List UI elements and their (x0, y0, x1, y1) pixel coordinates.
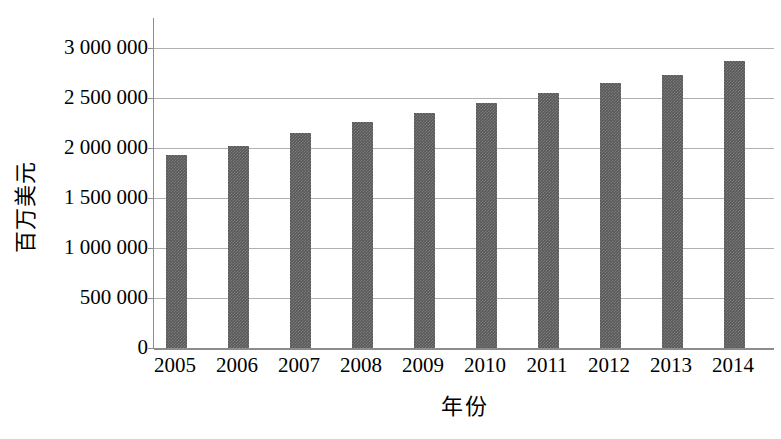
y-axis-tick-label: 2 000 000 (0, 137, 148, 158)
bars-layer (154, 18, 774, 348)
bar-chart: 百万美元 0500 0001 000 0001 500 0002 000 000… (0, 0, 781, 439)
plot-area (153, 18, 773, 348)
bar (352, 122, 373, 348)
x-axis-tick-label: 2013 (636, 355, 706, 376)
bar (476, 103, 497, 348)
y-axis-tick-label: 0 (0, 337, 148, 358)
x-axis-tick-label: 2011 (512, 355, 582, 376)
x-axis-tick-label: 2009 (388, 355, 458, 376)
bar (166, 155, 187, 348)
x-axis-tick-label: 2010 (450, 355, 520, 376)
y-axis-tick-label: 2 500 000 (0, 87, 148, 108)
y-axis-tick-label: 3 000 000 (0, 37, 148, 58)
y-axis-tick-label: 1 000 000 (0, 237, 148, 258)
bar (414, 113, 435, 348)
bar (538, 93, 559, 348)
x-axis-tick-label: 2007 (264, 355, 334, 376)
y-axis-tickmark (148, 348, 154, 349)
plot-inner (154, 18, 774, 348)
gridline (154, 348, 774, 350)
bar (290, 133, 311, 348)
x-axis-tick-labels: 2005200620072008200920102011201220132014 (153, 355, 773, 385)
x-axis-title: 年份 (0, 396, 781, 418)
x-axis-tick-label: 2005 (140, 355, 210, 376)
bar (662, 75, 683, 348)
y-axis-tick-labels: 0500 0001 000 0001 500 0002 000 0002 500… (0, 0, 148, 439)
bar (600, 83, 621, 348)
x-axis-tick-label: 2006 (202, 355, 272, 376)
y-axis-tick-label: 1 500 000 (0, 187, 148, 208)
x-axis-tick-label: 2012 (574, 355, 644, 376)
x-axis-tick-label: 2008 (326, 355, 396, 376)
bar (724, 61, 745, 348)
x-axis-tick-label: 2014 (698, 355, 768, 376)
bar (228, 146, 249, 348)
y-axis-tick-label: 500 000 (0, 287, 148, 308)
